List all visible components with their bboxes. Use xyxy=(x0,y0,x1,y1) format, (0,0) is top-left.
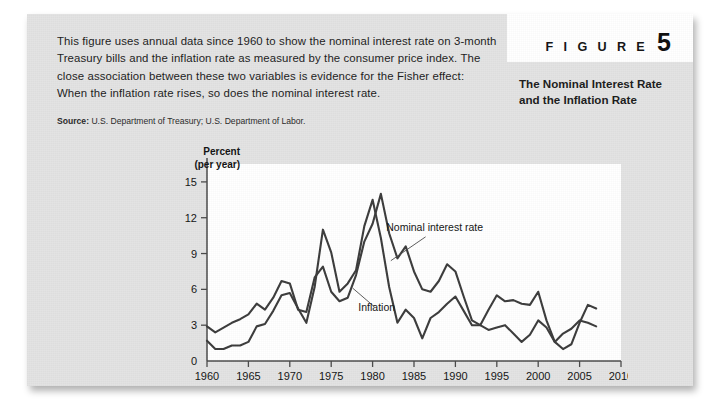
y-axis-title: Percent (per year) xyxy=(148,145,240,171)
figure-card: F I G U R E 5 The Nominal Interest Rate … xyxy=(27,14,693,386)
line-chart: 0369121519601965197019751980198519901995… xyxy=(168,145,628,402)
figure-source-text: U.S. Department of Treasury; U.S. Depart… xyxy=(91,116,305,126)
plot-background xyxy=(207,164,621,361)
figure-caption-block: This figure uses annual data since 1960 … xyxy=(57,33,497,127)
y-axis-tick-label: 9 xyxy=(191,248,197,260)
y-axis-tick-label: 0 xyxy=(191,355,197,367)
x-axis-tick-label: 1985 xyxy=(402,370,426,382)
y-axis-tick-label: 6 xyxy=(191,283,197,295)
x-axis-tick-label: 1995 xyxy=(485,370,509,382)
figure-source-label: Source: xyxy=(57,116,89,126)
series-annotation-label: Nominal interest rate xyxy=(386,221,483,233)
y-axis-tick-label: 12 xyxy=(185,212,197,224)
figure-number: 5 xyxy=(657,31,671,54)
series-annotation-label: Inflation xyxy=(358,301,395,313)
x-axis-tick-label: 2010 xyxy=(609,370,628,382)
figure-label: F I G U R E xyxy=(546,40,648,54)
x-axis-tick-label: 1965 xyxy=(236,370,260,382)
x-axis-tick-label: 2000 xyxy=(526,370,550,382)
x-axis-tick-label: 2005 xyxy=(567,370,591,382)
y-axis-tick-label: 3 xyxy=(191,319,197,331)
x-axis-tick-label: 1960 xyxy=(195,370,219,382)
figure-source: Source: U.S. Department of Treasury; U.S… xyxy=(57,115,497,127)
figure-subtitle: The Nominal Interest Rate and the Inflat… xyxy=(519,76,671,109)
y-axis-title-line1: Percent xyxy=(203,146,240,157)
y-axis-tick-label: 15 xyxy=(185,176,197,188)
x-axis-tick-label: 1980 xyxy=(360,370,384,382)
x-axis-tick-label: 1990 xyxy=(443,370,467,382)
y-axis-title-line2: (per year) xyxy=(194,159,240,170)
figure-header: F I G U R E 5 xyxy=(546,31,671,54)
x-axis-tick-label: 1975 xyxy=(319,370,343,382)
figure-caption-text: This figure uses annual data since 1960 … xyxy=(57,33,497,103)
x-axis-tick-label: 1970 xyxy=(278,370,302,382)
figure-page: F I G U R E 5 The Nominal Interest Rate … xyxy=(0,0,720,419)
chart-container: Percent (per year) 036912151960196519701… xyxy=(168,145,628,402)
